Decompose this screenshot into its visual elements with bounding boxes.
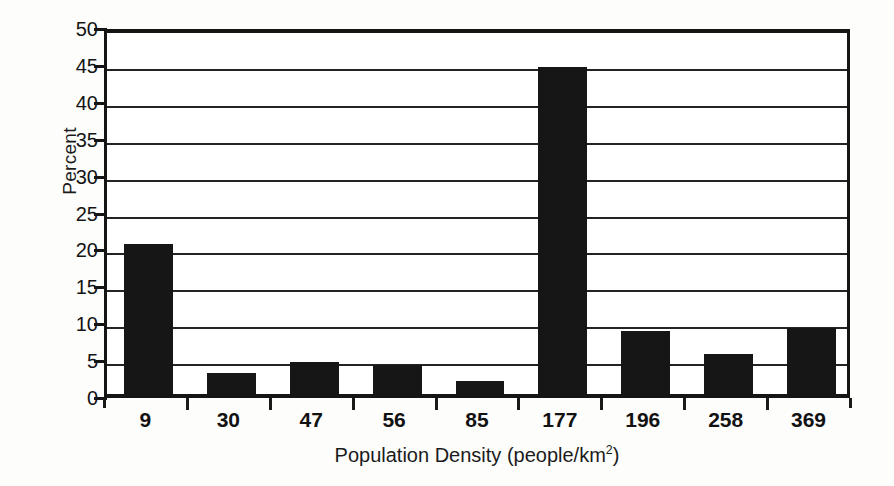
x-axis-tick-label: 47 xyxy=(270,408,353,432)
x-axis-tick-label: 30 xyxy=(187,408,270,432)
x-axis-tick-label: 9 xyxy=(104,408,187,432)
x-axis-title-superscript: 2 xyxy=(606,443,613,457)
x-axis-title-prefix: Population Density (people/km xyxy=(335,444,606,466)
x-axis-tick-label: 56 xyxy=(353,408,436,432)
x-axis-tick-label: 85 xyxy=(436,408,519,432)
x-axis-title: Population Density (people/km2) xyxy=(104,444,850,467)
x-axis-tick-label: 177 xyxy=(518,408,601,432)
x-axis-tick-mark xyxy=(103,398,106,408)
x-axis-tick-label: 196 xyxy=(601,408,684,432)
histogram-figure: Percent 05101520253035404550 93047568517… xyxy=(0,0,894,486)
x-axis-tick-mark xyxy=(849,398,852,408)
x-axis-tick-label: 258 xyxy=(684,408,767,432)
x-axis-title-suffix: ) xyxy=(613,444,620,466)
x-axis-tick-label: 369 xyxy=(767,408,850,432)
